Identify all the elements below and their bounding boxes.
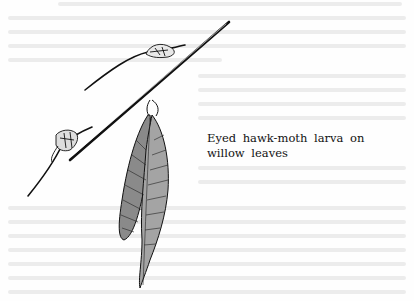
book-page: Eyed hawk-moth larva on willow leaves	[0, 0, 414, 301]
curled-leaf-upper	[146, 44, 174, 57]
hanging-leaf-with-larva	[119, 100, 168, 288]
figure-caption: Eyed hawk-moth larva on willow leaves	[207, 131, 407, 160]
